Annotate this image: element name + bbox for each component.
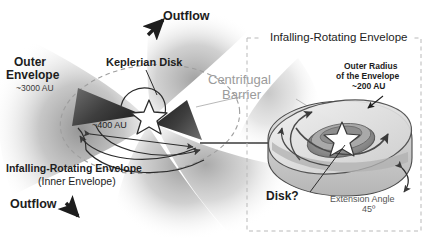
- centrifugal-barrier-label-line2: Barrier: [222, 88, 261, 102]
- outer-radius-label-line2: of the Envelope: [336, 72, 399, 81]
- extension-angle-value: 45º: [362, 205, 375, 215]
- infalling-envelope-label: Infalling-Rotating Envelope: [6, 163, 142, 174]
- right-panel-title: Infalling-Rotating Envelope: [266, 31, 411, 43]
- scale-400au-label: ~400 AU: [92, 121, 127, 131]
- outer-envelope-scale: ~3000 AU: [16, 84, 54, 93]
- disk-question-label: Disk?: [266, 190, 299, 203]
- infalling-envelope-sublabel: (Inner Envelope): [38, 176, 116, 187]
- outer-envelope-label-line2: Envelope: [6, 69, 59, 82]
- centrifugal-barrier-label-line1: Centrifugal: [208, 73, 271, 87]
- outflow-label-bottom: Outflow: [10, 198, 57, 212]
- outflow-label-top: Outflow: [163, 10, 210, 24]
- outflow-arrow-bottom: [66, 203, 78, 216]
- keplerian-disk-label: Keplerian Disk: [106, 57, 182, 69]
- outer-radius-label-line3: ~200 AU: [352, 82, 385, 91]
- figure-root: Outflow Outer Envelope ~3000 AU Kepleria…: [0, 0, 428, 241]
- outer-envelope-label: Outer: [14, 56, 46, 69]
- outer-radius-label-line1: Outer Radius: [344, 62, 397, 71]
